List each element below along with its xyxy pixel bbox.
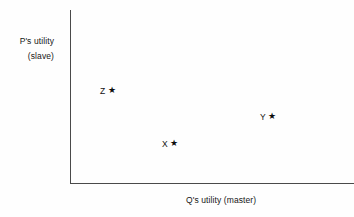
y-axis-label-line2: (slave): [0, 49, 54, 64]
y-axis-label: P's utility (slave): [0, 34, 54, 64]
data-point-z-label: Z: [100, 86, 105, 96]
data-point-z: Z ★: [100, 86, 116, 96]
scatter-plot-figure: P's utility (slave) Q's utility (master)…: [0, 0, 354, 217]
x-axis-line: [70, 183, 354, 184]
star-icon: ★: [170, 139, 178, 148]
y-axis-label-line1: P's utility: [20, 36, 54, 46]
data-point-x: X ★: [162, 139, 178, 149]
x-axis-label: Q's utility (master): [186, 195, 256, 206]
data-point-x-label: X: [162, 139, 168, 149]
star-icon: ★: [268, 112, 276, 121]
data-point-y: Y ★: [260, 112, 276, 122]
data-point-y-label: Y: [260, 112, 266, 122]
y-axis-line: [70, 10, 71, 184]
star-icon: ★: [108, 86, 116, 95]
